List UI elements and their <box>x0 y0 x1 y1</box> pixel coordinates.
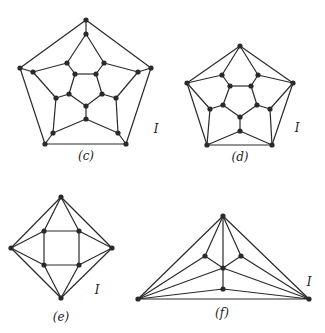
graph-edge <box>223 86 230 105</box>
graph-vertex <box>101 60 106 65</box>
graph-edge <box>69 74 75 94</box>
graph-vertex <box>204 142 209 147</box>
graph-edge <box>67 34 86 63</box>
graph-edge <box>33 63 67 72</box>
caption-f: (f) <box>215 306 229 320</box>
graph-edge <box>44 265 61 298</box>
graph-vertex <box>255 72 260 77</box>
graph-vertex <box>148 65 153 70</box>
graph-vertex <box>72 71 77 76</box>
graph-vertex <box>123 141 128 146</box>
graph-edge <box>86 94 102 106</box>
graph-vertex <box>184 80 189 85</box>
graph-vertex <box>53 95 58 100</box>
caption-e: (e) <box>53 310 70 324</box>
graph-vertex <box>135 296 140 301</box>
graph-edge <box>11 197 61 248</box>
graph-figure: (c) I (d) I (e) I (f) I <box>0 0 325 333</box>
graph-edge <box>79 248 112 265</box>
graph-vertex <box>41 262 46 267</box>
graph-vertex <box>202 253 207 258</box>
graph-edge <box>240 105 257 117</box>
graph-vertex <box>76 228 81 233</box>
graph-edge <box>270 83 293 109</box>
graph-edge <box>116 98 118 133</box>
label-I-e: I <box>94 283 100 297</box>
graph-edge <box>96 74 102 94</box>
graph-vertex <box>267 106 272 111</box>
graph-d: (d) I <box>184 43 299 164</box>
graph-vertex <box>227 83 232 88</box>
graph-vertex <box>109 245 114 250</box>
graph-edge <box>11 248 44 265</box>
graph-edge <box>223 105 240 117</box>
graph-e: (e) I <box>8 194 114 324</box>
graph-vertex <box>248 83 253 88</box>
graph-edge <box>79 231 112 248</box>
graph-edge <box>207 109 210 145</box>
graph-edge <box>33 72 56 98</box>
graph-edge <box>44 197 61 231</box>
graph-vertex <box>58 194 63 199</box>
graph-vertex <box>113 95 118 100</box>
graph-vertex <box>30 69 35 74</box>
graph-edge <box>116 72 138 98</box>
graph-edge <box>272 83 293 145</box>
caption-d: (d) <box>231 150 248 164</box>
caption-c: (c) <box>78 149 94 163</box>
graph-vertex <box>220 213 225 218</box>
label-I-c: I <box>153 122 159 136</box>
graph-vertex <box>219 72 224 77</box>
graph-edge <box>69 94 86 106</box>
graph-edge <box>205 256 223 268</box>
label-I-f: I <box>306 275 312 289</box>
graph-edge <box>104 63 138 72</box>
label-I-d: I <box>294 121 300 135</box>
graph-vertex <box>269 142 274 147</box>
graph-vertex <box>42 141 47 146</box>
graph-vertex <box>220 265 225 270</box>
graph-vertex <box>76 262 81 267</box>
graph-vertex <box>237 114 242 119</box>
graph-vertex <box>135 69 140 74</box>
graph-vertex <box>83 116 88 121</box>
graph-edge <box>11 231 44 248</box>
graph-vertex <box>237 128 242 133</box>
graph-vertex <box>83 17 88 22</box>
graph-vertex <box>238 253 243 258</box>
graph-vertex <box>66 91 71 96</box>
graph-edge <box>223 256 241 268</box>
graph-edge <box>126 68 151 144</box>
graph-edge <box>20 20 86 68</box>
graph-edge <box>61 265 79 298</box>
graph-vertex <box>254 102 259 107</box>
graph-edge <box>61 248 112 298</box>
graph-vertex <box>237 43 242 48</box>
graph-edge <box>205 216 223 256</box>
graph-c: (c) I <box>17 17 158 163</box>
graph-edge <box>222 46 240 75</box>
graph-vertex <box>8 245 13 250</box>
graph-vertex <box>220 286 225 291</box>
graph-edge <box>86 20 151 68</box>
graph-vertex <box>64 60 69 65</box>
graph-vertex <box>93 71 98 76</box>
graph-edge <box>251 86 257 105</box>
graph-edge <box>20 68 45 144</box>
graph-edge <box>138 216 223 299</box>
graph-f: (f) I <box>135 213 311 320</box>
graph-vertex <box>306 296 311 301</box>
graph-vertex <box>50 130 55 135</box>
graph-edge <box>187 83 207 145</box>
graph-vertex <box>17 65 22 70</box>
graph-edge <box>11 248 61 298</box>
graph-edge <box>61 197 79 231</box>
graph-edge <box>270 109 272 145</box>
graph-edge <box>61 197 112 248</box>
graph-edge <box>86 119 118 133</box>
graph-edge <box>207 131 240 145</box>
graph-vertex <box>41 228 46 233</box>
graph-edge <box>223 216 241 256</box>
graph-vertex <box>58 295 63 300</box>
graph-vertex <box>83 31 88 36</box>
